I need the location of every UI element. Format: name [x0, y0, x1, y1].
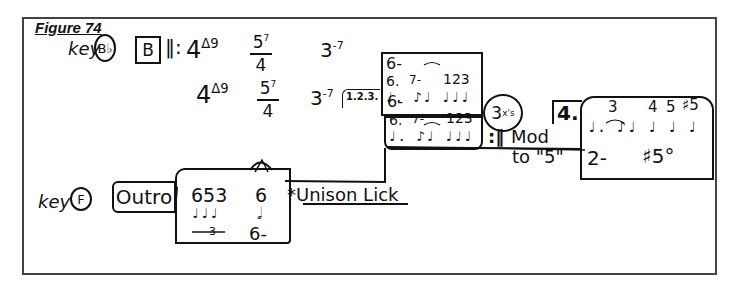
- triplet-rhythm: ♩♩♩: [191, 206, 219, 220]
- chord-quality: -7: [333, 39, 344, 52]
- chord-root: 3: [310, 86, 323, 110]
- chord-quality: 7: [264, 33, 270, 43]
- box-rhythm: ♩. ♪♩ ♩♩♩: [388, 129, 473, 143]
- chord-root: 4: [186, 36, 201, 64]
- chord-4maj9-row1: 4Δ9: [186, 37, 219, 62]
- box-degree-6: 6.: [386, 74, 399, 88]
- mod-label: Mod: [511, 128, 549, 146]
- key-badge-f: F: [70, 187, 92, 211]
- repeat-start-sign: ‖:: [165, 37, 182, 57]
- key-label-f: key: [38, 193, 70, 211]
- chord-3min7-row2: 3-7: [310, 88, 334, 108]
- chord-quality: Δ9: [201, 36, 218, 51]
- ending-4-box: 3 4 5 ♯5 ♩. ♪♩ ♩ ♩ ♩ 2- ♯5°: [580, 96, 714, 180]
- phrase-box-lower: 6- 6. 7- 123 ♩. ♪♩ ♩♩♩: [384, 116, 483, 150]
- box-degree-123: 123: [446, 111, 473, 125]
- mod-target: to "5": [512, 148, 564, 166]
- repeat-count: 3: [491, 105, 502, 122]
- ending-chord-sharp5dim: ♯5°: [642, 146, 674, 166]
- triplet-degrees: 653: [191, 186, 227, 205]
- ending-degree: ♯5: [682, 98, 699, 113]
- box-chord: 6-: [387, 94, 403, 110]
- chord-quality: 7: [271, 79, 277, 89]
- chord-5-7-over-4-row2: 57 4: [257, 80, 279, 120]
- key-badge-bflat: B♭: [94, 34, 116, 62]
- final-chord: 6-: [249, 225, 267, 243]
- chord-3min7-row1: 3-7: [320, 40, 344, 60]
- chord-quality: -7: [323, 87, 334, 100]
- section-label: Outro: [116, 187, 172, 207]
- section-letter: B: [142, 42, 154, 59]
- ending-degree: 5: [666, 100, 676, 115]
- box-degree-7: 7-: [412, 113, 424, 125]
- fermata-degree: 6: [255, 186, 267, 205]
- key-value: F: [77, 193, 84, 206]
- chord-quality: Δ9: [211, 81, 228, 96]
- repeat-times: x's: [502, 109, 515, 118]
- box-degree-7: 7-: [409, 74, 421, 86]
- ending-4-label: 4.: [552, 100, 582, 124]
- chord-bass: 4: [263, 103, 274, 120]
- chord-root: 4: [196, 81, 211, 109]
- outro-lick-box: 653 ♩♩♩ 3 6 𝅗𝅥 6-: [175, 168, 291, 244]
- unison-lick-annotation: *Unison Lick: [287, 186, 398, 204]
- chord-5-7-over-4-row1: 57 4: [250, 34, 272, 74]
- key-value: B♭: [97, 42, 112, 55]
- ending-rhythm: ♩. ♪♩ ♩ ♩ ♩: [587, 120, 697, 135]
- ending-chord-2min: 2-: [587, 148, 607, 168]
- chord-root: 5: [253, 32, 264, 52]
- triplet-number: 3: [209, 226, 216, 237]
- ending-degree: 4: [648, 100, 658, 115]
- chord-bass: 4: [256, 57, 267, 74]
- section-marker-outro: Outro: [112, 181, 176, 213]
- box-degree-6: 6.: [389, 113, 402, 127]
- chord-4maj9-row2: 4Δ9: [196, 82, 229, 107]
- half-note: 𝅗𝅥: [257, 206, 262, 222]
- chord-root: 5: [260, 78, 271, 98]
- box-degree-123: 123: [443, 72, 470, 86]
- ending-bracket-1-2-3: 1.2.3.: [342, 89, 380, 108]
- ending-degree: 3: [608, 100, 618, 115]
- section-marker-b: B: [135, 36, 161, 64]
- box-chord: 6-: [386, 56, 402, 72]
- chord-root: 3: [320, 38, 333, 62]
